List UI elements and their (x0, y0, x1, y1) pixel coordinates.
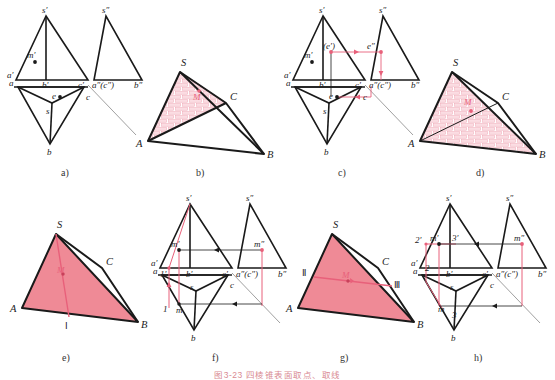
label-s-prime-f: s′ (186, 193, 193, 203)
label-M-d: M (463, 97, 472, 107)
label-b-dprime-h: b″ (538, 269, 547, 279)
label-A-g: A (285, 303, 293, 314)
label-c-prime-a: c′ (78, 80, 85, 90)
figure-caption: 图3-23 四棱锥表面取点、取线 (0, 368, 555, 380)
label-b-prime-h: b′ (446, 269, 454, 279)
label-S-g: S (333, 219, 339, 230)
label-a-h: a (413, 266, 418, 276)
label-s-dprime-h: s″ (506, 193, 514, 203)
label-C-e: C (106, 256, 114, 267)
label-B-e: B (141, 319, 148, 330)
label-m-prime-f: m′ (171, 239, 180, 249)
label-b-prime-c: b′ (319, 80, 327, 90)
panel-letter-g: g) (340, 352, 348, 363)
label-m-prime-a: m′ (27, 50, 36, 60)
panel-letter-d: d) (476, 167, 484, 178)
label-a-f: a (153, 266, 158, 276)
panel-a: s′ s″ m′ a′ b′ c′ a″(c″) b″ a e c s b (8, 8, 148, 163)
label-1-prime-f: 1′ (160, 269, 168, 279)
label-roman-II-g: Ⅱ (302, 268, 306, 278)
panel-letter-h: h) (474, 352, 482, 363)
label-s-prime-h: s′ (446, 193, 453, 203)
miter-line-h (492, 273, 540, 323)
panel-d: S A B C M (412, 55, 552, 165)
label-ac-dprime-c: a″(c″) (369, 80, 391, 90)
panel-letter-b: b) (196, 167, 204, 178)
label-A-b: A (135, 138, 143, 149)
label-s-a: s (46, 106, 50, 116)
label-m-dprime-f: m″ (254, 239, 264, 249)
label-c-lower-f: c (230, 280, 234, 290)
label-M-e: M (56, 265, 65, 275)
label-b-dprime-f: b″ (278, 269, 287, 279)
side-view-a (94, 16, 142, 80)
panel-letter-f: f) (212, 352, 219, 363)
label-b-prime-a: b′ (42, 80, 50, 90)
point-e-c (335, 95, 339, 99)
label-c-lower-c: c (363, 92, 367, 102)
label-C-d: C (502, 91, 510, 102)
label-b-a: b (47, 147, 52, 157)
label-3-lower-h: 3 (451, 310, 457, 320)
point-m-d (469, 109, 473, 113)
panel-letter-c: c) (338, 167, 346, 178)
panel-letter-a: a) (61, 167, 69, 178)
label-c-prime-h: c′ (482, 269, 489, 279)
top-view-h (422, 275, 488, 330)
label-S-b: S (181, 57, 187, 68)
label-b-lower-h: b (451, 333, 456, 343)
label-A-e: A (9, 303, 17, 314)
panel-g: S A B C M Ⅱ Ⅲ (288, 212, 428, 334)
label-b-lower-f: b (191, 333, 196, 343)
point-m-prime-a (33, 60, 37, 64)
pyramid-face-fill-g (298, 234, 414, 322)
label-M-b: M (192, 92, 201, 102)
label-s-prime-a: s′ (42, 5, 49, 15)
top-view-c (295, 87, 361, 144)
label-B-d: B (539, 149, 546, 160)
label-ac-dprime-h: a″(c″) (496, 269, 518, 279)
point-2-prime-h (424, 242, 427, 245)
label-m-lower-h: m (438, 304, 445, 314)
point-m-prime-c (310, 60, 314, 64)
label-3-prime-h: 3′ (451, 233, 460, 243)
label-m-prime-c: m′ (304, 50, 313, 60)
label-B-b: B (267, 149, 274, 160)
label-m-prime-h: m′ (430, 233, 439, 243)
top-view-f (162, 275, 228, 330)
label-2-lower-h: 2 (425, 263, 430, 273)
pyramid-face-fill-e (22, 234, 138, 322)
label-C-g: C (382, 256, 390, 267)
point-e-a (58, 95, 62, 99)
panel-f: s′ s″ m′ m″ a′ 1′ b′ c′ a″(c″) b″ a s c … (152, 196, 292, 346)
label-ac-dprime-f: a″(c″) (236, 269, 258, 279)
label-a-c: a (286, 78, 291, 88)
label-m-lower-f: m (176, 305, 183, 315)
label-c-lower-h: c (490, 280, 494, 290)
label-ac-dprime-a: a″(c″) (92, 80, 114, 90)
front-view-f (160, 204, 232, 268)
point-e-dprime-c (379, 50, 383, 54)
label-e-c: e (329, 91, 333, 101)
label-S-d: S (453, 57, 459, 68)
panel-h: s′ s″ 2′ m′ 3′ m″ a′ b′ c′ a″(c″) b″ 2 a… (412, 196, 552, 346)
label-b-prime-f: b′ (186, 269, 194, 279)
point-1-prime-f (167, 266, 170, 269)
label-roman-III-g: Ⅲ (394, 280, 400, 290)
label-s-dprime-f: s″ (246, 193, 254, 203)
label-a-a: a (9, 78, 14, 88)
miter-line-c (365, 85, 413, 135)
miter-line-a (88, 85, 136, 135)
panel-b: S A B C M (140, 55, 280, 165)
label-C-b: C (230, 91, 238, 102)
label-s-lower-h: s (450, 282, 454, 292)
label-e-dprime-c: e″ (367, 41, 375, 51)
panel-letter-e: e) (62, 352, 70, 363)
label-A-d: A (407, 138, 415, 149)
label-s-dprime-a: s″ (102, 5, 110, 15)
label-m-dprime-h: m″ (514, 233, 524, 243)
panel-e: S A B C M Ⅰ (12, 212, 152, 334)
miter-line-f (232, 273, 280, 323)
label-M-g: M (341, 270, 350, 280)
